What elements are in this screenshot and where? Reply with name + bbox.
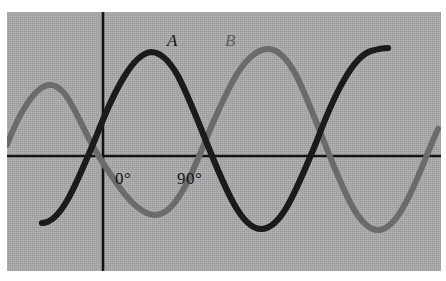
x-tick-label-90deg: 90° — [177, 170, 202, 187]
curve-b-path — [7, 49, 438, 230]
figure-root: 0° 90° A B — [0, 0, 446, 281]
curve-b-label: B — [225, 32, 235, 49]
curve-a-label: A — [167, 32, 177, 49]
curve-a-path — [42, 48, 388, 229]
plot-area: 0° 90° A B — [7, 12, 441, 271]
x-tick-label-0deg: 0° — [115, 170, 131, 187]
sine-wave-plot — [7, 12, 441, 271]
